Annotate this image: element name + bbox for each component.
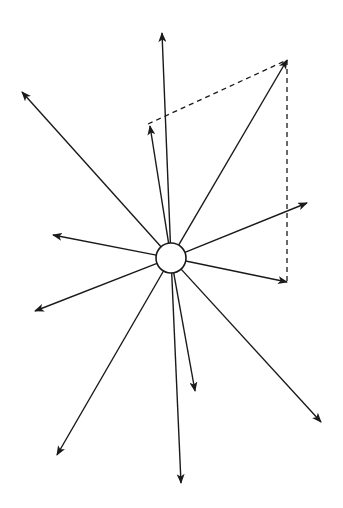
vector-down-left-arrow [57, 271, 164, 455]
vector-diagram [0, 0, 343, 508]
center-node-circle [156, 243, 186, 273]
vector-right-up-arrow [185, 203, 307, 252]
vector-left-arrow [53, 235, 156, 255]
dashed-parallel-top-line [148, 60, 287, 124]
vector-down-right-arrow [181, 269, 321, 422]
vector-right-down-arrow [186, 261, 287, 282]
vector-lower-left-arrow [35, 263, 157, 311]
vector-upper-left-arrow [22, 92, 161, 247]
vector-short-down-arrow [174, 273, 195, 391]
